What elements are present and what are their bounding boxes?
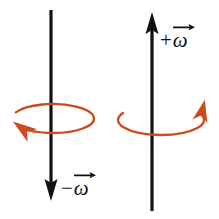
positive-sign: + [160, 28, 172, 52]
rotation-ellipse-clockwise [118, 113, 204, 135]
omega-symbol-negative: ω [73, 178, 90, 199]
angular-velocity-diagram: − ω + ω [0, 0, 219, 219]
vector-arrow-icon [74, 171, 96, 178]
omega-glyph: ω [173, 28, 188, 52]
omega-symbol-positive: ω [172, 30, 189, 51]
label-positive-omega: + ω [160, 30, 189, 51]
negative-sign: − [61, 176, 73, 200]
label-negative-omega: − ω [61, 178, 90, 199]
rotation-arrowhead-upright-icon [193, 100, 208, 123]
vector-arrow-icon [173, 23, 195, 30]
omega-glyph: ω [74, 176, 89, 200]
